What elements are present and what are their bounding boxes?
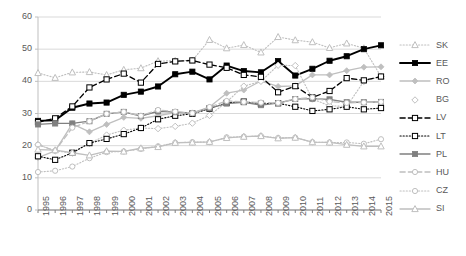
data-point-marker xyxy=(224,98,229,103)
data-point-marker xyxy=(241,99,246,104)
data-point-marker xyxy=(378,105,383,110)
data-point-marker xyxy=(173,59,178,64)
data-point-marker xyxy=(35,169,40,174)
data-point-marker xyxy=(87,119,92,124)
data-point-marker xyxy=(207,104,212,109)
x-axis-tick-label: 1997 xyxy=(76,196,85,216)
y-axis-tick-label: 10 xyxy=(6,173,32,182)
legend-item-LT[interactable]: LT xyxy=(398,127,464,145)
data-point-marker xyxy=(104,136,109,141)
x-axis-tick-label: 2015 xyxy=(385,196,394,216)
data-point-marker xyxy=(412,78,418,84)
data-point-marker xyxy=(361,100,366,105)
legend-item-CZ[interactable]: CZ xyxy=(398,182,464,200)
data-point-marker xyxy=(293,96,298,101)
legend-label-LV: LV xyxy=(432,113,446,122)
data-point-marker xyxy=(138,89,143,94)
data-point-marker xyxy=(104,100,109,105)
data-point-marker xyxy=(344,54,349,59)
legend-item-PL[interactable]: PL xyxy=(398,145,464,163)
data-point-marker xyxy=(412,152,417,157)
data-point-marker xyxy=(53,121,58,126)
data-point-marker xyxy=(190,58,195,63)
data-point-marker xyxy=(104,77,109,82)
data-point-marker xyxy=(327,99,332,104)
x-axis-tick-label: 2008 xyxy=(265,196,274,216)
data-point-marker xyxy=(121,71,126,76)
data-point-marker xyxy=(293,104,298,109)
data-point-marker xyxy=(293,73,298,78)
legend-swatch-HU xyxy=(398,165,432,179)
legend-item-HU[interactable]: HU xyxy=(398,163,464,181)
data-point-marker xyxy=(207,62,212,67)
data-point-marker xyxy=(87,140,92,145)
legend-item-LV[interactable]: LV xyxy=(398,109,464,127)
legend-label-BG: BG xyxy=(432,95,449,104)
legend-item-RO[interactable]: RO xyxy=(398,72,464,90)
data-point-marker xyxy=(412,133,417,138)
data-point-marker xyxy=(344,76,349,81)
data-point-marker xyxy=(87,101,92,106)
x-axis-tick-label: 2006 xyxy=(231,196,240,216)
legend-swatch-LV xyxy=(398,111,432,125)
data-point-marker xyxy=(121,109,126,114)
legend-item-BG[interactable]: BG xyxy=(398,91,464,109)
data-point-marker xyxy=(70,125,75,130)
data-point-marker xyxy=(173,72,178,77)
legend-item-SK[interactable]: SK xyxy=(398,36,464,54)
plot-area xyxy=(0,0,466,256)
x-axis-tick-label: 2007 xyxy=(248,196,257,216)
x-axis-tick-label: 2004 xyxy=(196,196,205,216)
x-axis-tick-label: 1998 xyxy=(93,196,102,216)
data-point-marker xyxy=(412,96,418,102)
y-axis-tick-label: 60 xyxy=(6,12,32,21)
data-point-marker xyxy=(190,69,195,74)
data-point-marker xyxy=(327,107,332,112)
legend-item-EE[interactable]: EE xyxy=(398,54,464,72)
data-point-marker xyxy=(378,99,383,104)
data-point-marker xyxy=(378,74,383,79)
legend-swatch-SI xyxy=(398,202,432,216)
data-point-marker xyxy=(155,84,160,89)
data-point-marker xyxy=(241,72,246,77)
data-point-marker xyxy=(138,113,143,118)
data-point-marker xyxy=(121,131,126,136)
data-point-marker xyxy=(207,77,212,82)
data-point-marker xyxy=(276,100,281,105)
y-axis-tick-label: 30 xyxy=(6,109,32,118)
x-axis-tick-label: 2003 xyxy=(179,196,188,216)
x-axis-tick-label: 2005 xyxy=(214,196,223,216)
data-point-marker xyxy=(53,157,58,162)
legend-label-LT: LT xyxy=(432,132,446,141)
legend-label-EE: EE xyxy=(432,59,448,68)
legend-label-SI: SI xyxy=(432,204,445,213)
x-axis-tick-label: 2012 xyxy=(334,196,343,216)
y-axis-tick-label: 50 xyxy=(6,44,32,53)
legend-label-PL: PL xyxy=(432,150,447,159)
chart-legend: SKEEROBGLVLTPLHUCZSI xyxy=(398,36,464,218)
x-axis-tick-label: 2000 xyxy=(128,196,137,216)
data-point-marker xyxy=(155,117,160,122)
data-point-marker xyxy=(155,61,160,66)
data-point-marker xyxy=(276,90,281,95)
data-point-marker xyxy=(70,164,75,169)
data-point-marker xyxy=(412,61,417,66)
legend-swatch-LT xyxy=(398,129,432,143)
data-point-marker xyxy=(310,108,315,113)
line-chart: 0102030405060 19951996199719981999200020… xyxy=(0,0,466,256)
data-point-marker xyxy=(327,88,332,93)
data-point-marker xyxy=(155,107,160,112)
x-axis-tick-label: 2009 xyxy=(282,196,291,216)
legend-swatch-RO xyxy=(398,74,432,88)
data-point-marker xyxy=(224,65,229,70)
x-axis-tick-label: 1996 xyxy=(59,196,68,216)
legend-item-SI[interactable]: SI xyxy=(398,200,464,218)
legend-swatch-SK xyxy=(398,38,432,52)
data-point-marker xyxy=(327,58,332,63)
data-point-marker xyxy=(344,100,349,105)
data-point-marker xyxy=(378,137,383,142)
data-point-marker xyxy=(293,84,298,89)
data-point-marker xyxy=(361,107,366,112)
x-axis-tick-label: 2011 xyxy=(316,197,325,216)
data-point-marker xyxy=(378,43,383,48)
